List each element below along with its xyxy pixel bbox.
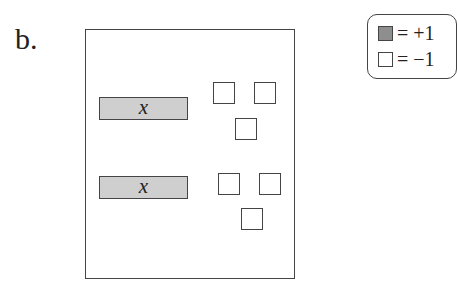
legend-item-negative: = −1: [378, 49, 435, 69]
white-square-icon: [378, 52, 393, 67]
unit-tile-negative: [218, 173, 240, 195]
unit-tile-negative: [254, 82, 276, 104]
problem-label: b.: [15, 24, 38, 54]
algebra-tile-mat: [85, 29, 295, 279]
x-tile-2: x: [99, 176, 188, 199]
x-tile-1: x: [99, 97, 188, 120]
legend-item-positive: = +1: [378, 23, 435, 43]
x-tile-label: x: [139, 95, 148, 119]
unit-tile-negative: [259, 173, 281, 195]
unit-tile-negative: [235, 118, 257, 140]
legend: = +1 = −1: [367, 14, 457, 79]
unit-tile-negative: [213, 82, 235, 104]
unit-tile-negative: [241, 208, 263, 230]
shaded-square-icon: [378, 26, 393, 41]
x-tile-label: x: [139, 174, 148, 198]
